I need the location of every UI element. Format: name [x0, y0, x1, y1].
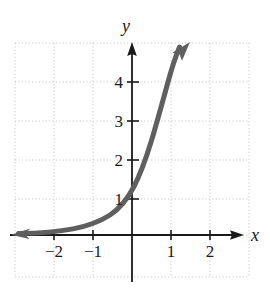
y-axis-label: y: [122, 17, 130, 35]
x-tick-label-1: 1: [167, 243, 176, 260]
plot-canvas: [0, 0, 270, 289]
y-axis: [127, 42, 137, 282]
exponential-function-graph: −2 −1 1 2 1 2 3 4 y x: [0, 0, 270, 289]
x-tick-label-2: 2: [206, 243, 215, 260]
y-tick-label-2: 2: [115, 152, 124, 169]
x-axis-label: x: [251, 226, 259, 244]
right-arrow-icon: [230, 230, 244, 240]
x-tick-label-minus-1: −1: [84, 243, 102, 260]
x-tick-label-minus-2: −2: [45, 243, 63, 260]
curve-path: [19, 47, 180, 234]
y-tick-label-1: 1: [115, 191, 124, 208]
y-tick-label-4: 4: [115, 74, 124, 91]
y-tick-label-3: 3: [115, 113, 124, 130]
up-arrow-icon: [127, 42, 137, 56]
exponential-curve: [11, 42, 190, 239]
